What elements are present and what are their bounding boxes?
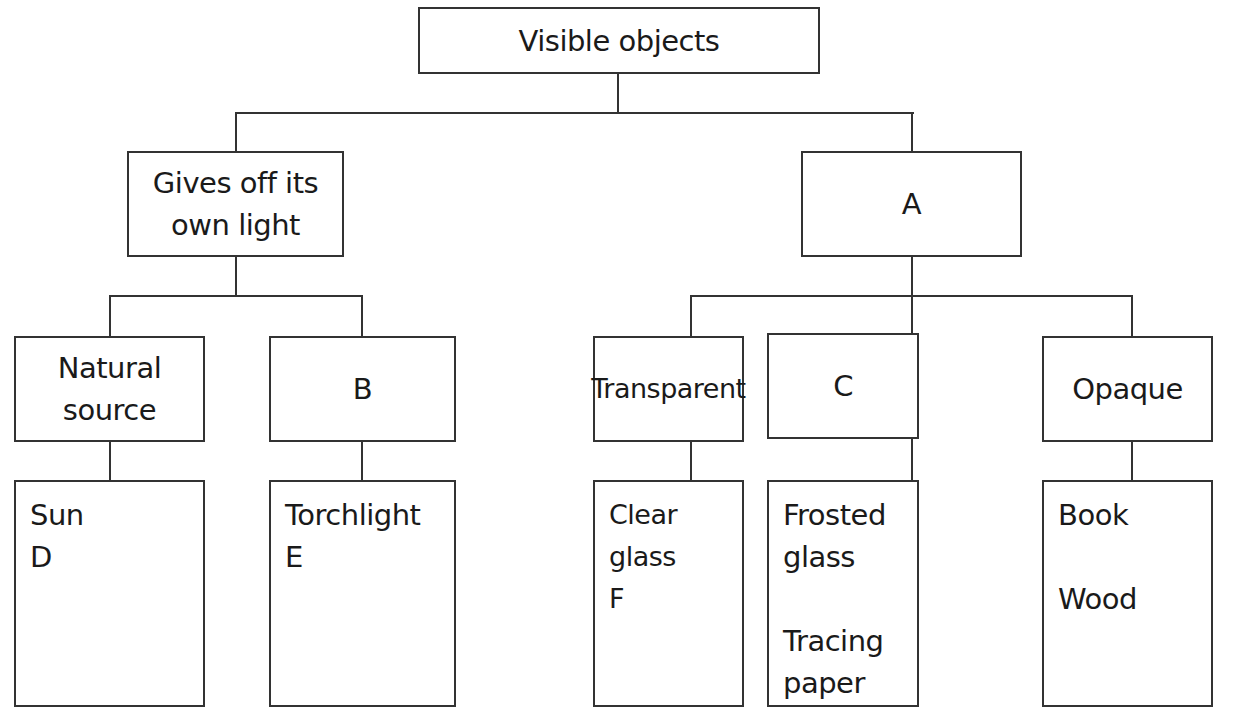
connector-a-down	[911, 255, 913, 297]
connector-to-opaque	[1131, 295, 1133, 338]
leaf-c-examples: Frosted glass Tracing paper	[767, 480, 919, 707]
leaf-item: Book	[1058, 494, 1211, 536]
connector-opaque-leaf	[1131, 440, 1133, 482]
connector-transparent-leaf	[690, 440, 692, 482]
leaf-item: Torchlight	[285, 494, 454, 536]
node-a: A	[801, 151, 1022, 257]
leaf-item: D	[30, 536, 203, 578]
leaf-item: E	[285, 536, 454, 578]
connector-natural-source-leaf	[109, 440, 111, 482]
connector-root-down	[617, 73, 619, 114]
connector-to-c	[911, 295, 913, 335]
connector-gives-off-light-down	[235, 255, 237, 297]
leaf-item: Clear glass	[609, 494, 742, 578]
node-c: C	[767, 333, 919, 439]
node-label: C	[833, 365, 853, 407]
connector-to-natural-source	[109, 295, 111, 338]
leaf-natural-source-examples: Sun D	[14, 480, 205, 707]
leaf-item: F	[609, 578, 742, 620]
node-label: A	[902, 183, 921, 225]
node-label: B	[353, 368, 372, 410]
node-label: Gives off its own light	[153, 162, 318, 246]
leaf-item: Sun	[30, 494, 203, 536]
node-gives-off-own-light: Gives off its own light	[127, 151, 344, 257]
leaf-transparent-examples: Clear glass F	[593, 480, 744, 707]
connector-level1-bus	[235, 112, 914, 114]
connector-to-b	[361, 295, 363, 338]
node-b: B	[269, 336, 456, 442]
connector-to-a	[911, 112, 913, 153]
connector-c-leaf	[911, 437, 913, 482]
node-label: Opaque	[1072, 368, 1183, 410]
node-natural-source: Natural source	[14, 336, 205, 442]
root-node-visible-objects: Visible objects	[418, 7, 820, 74]
connector-b-leaf	[361, 440, 363, 482]
leaf-item: Frosted glass	[783, 494, 917, 578]
leaf-opaque-examples: Book Wood	[1042, 480, 1213, 707]
connector-to-gives-off-light	[235, 112, 237, 153]
leaf-item: Wood	[1058, 578, 1211, 620]
node-label: Natural source	[58, 347, 161, 431]
connector-left-bus	[109, 295, 363, 297]
node-opaque: Opaque	[1042, 336, 1213, 442]
leaf-item: Tracing paper	[783, 620, 917, 704]
leaf-b-examples: Torchlight E	[269, 480, 456, 707]
node-label: Visible objects	[519, 20, 720, 62]
connector-to-transparent	[690, 295, 692, 338]
node-label: Transparent	[591, 368, 745, 410]
node-transparent: Transparent	[593, 336, 744, 442]
